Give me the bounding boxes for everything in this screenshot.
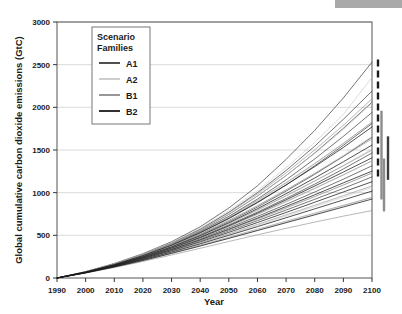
emissions-line-chart: 050010001500200025003000 199020002010202… (0, 0, 402, 314)
series-line-B1-4 (57, 150, 372, 278)
y-tick-label-2000: 2000 (32, 103, 50, 112)
y-axis-title: Global cumulative carbon dioxide emissio… (13, 36, 24, 264)
legend: Scenario Families A1A2B1B2 (92, 27, 150, 124)
y-tick-label-3000: 3000 (32, 18, 50, 27)
legend-title-line1: Scenario (97, 32, 136, 42)
series-line-A1-5 (57, 124, 372, 278)
range-bars (378, 60, 388, 212)
y-tick-label-1500: 1500 (32, 146, 50, 155)
chart-page: 050010001500200025003000 199020002010202… (0, 0, 402, 314)
series-line-A1-3 (57, 102, 372, 278)
y-tick-label-500: 500 (37, 231, 51, 240)
x-tick-label-2050: 2050 (220, 286, 238, 295)
x-tick-label-1990: 1990 (48, 286, 66, 295)
y-tick-label-2500: 2500 (32, 61, 50, 70)
legend-label-A2: A2 (126, 75, 138, 85)
y-axis: 050010001500200025003000 (32, 18, 57, 283)
legend-title-line2: Families (97, 43, 133, 53)
x-tick-label-2000: 2000 (77, 286, 95, 295)
series-line-B1-8 (57, 197, 372, 278)
y-tick-label-0: 0 (46, 274, 51, 283)
series-line-B1 (57, 99, 372, 278)
legend-label-B2: B2 (126, 107, 138, 117)
x-tick-label-2010: 2010 (105, 286, 123, 295)
legend-label-A1: A1 (126, 59, 138, 69)
series-line-B1-2 (57, 122, 372, 278)
legend-label-B1: B1 (126, 91, 138, 101)
x-tick-label-2080: 2080 (306, 286, 324, 295)
x-tick-label-2090: 2090 (334, 286, 352, 295)
x-axis: 1990200020102020203020402050206020702080… (48, 278, 381, 295)
series-line-A1-7 (57, 153, 372, 278)
x-tick-label-2070: 2070 (277, 286, 295, 295)
y-tick-label-1000: 1000 (32, 189, 50, 198)
series-line-A2-4 (57, 136, 372, 278)
x-tick-label-2040: 2040 (191, 286, 209, 295)
x-axis-title: Year (204, 296, 224, 307)
x-tick-label-2060: 2060 (249, 286, 267, 295)
x-tick-label-2030: 2030 (163, 286, 181, 295)
x-tick-label-2020: 2020 (134, 286, 152, 295)
x-tick-label-2100: 2100 (363, 286, 381, 295)
